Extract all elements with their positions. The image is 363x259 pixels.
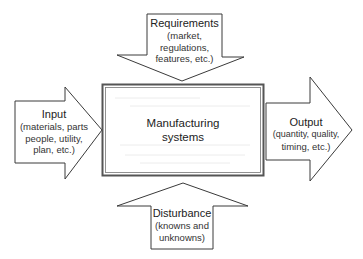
manufacturing-systems-label: Manufacturing systems [104,116,262,144]
output-label: Output (quantity, quality, timing, etc.) [265,116,347,152]
disturbance-title: Disturbance [150,207,214,220]
output-title: Output [265,116,347,129]
output-detail-2: timing, etc.) [265,141,347,153]
requirements-label: Requirements (market, regulations, featu… [147,17,222,65]
disturbance-detail-1: (knowns and [150,220,214,232]
input-label: Input (materials, parts people, utility,… [14,108,94,156]
disturbance-label: Disturbance (knowns and unknowns) [150,207,214,243]
input-detail-1: (materials, parts [14,121,94,133]
center-title-line2: systems [104,130,262,144]
input-detail-3: plan, etc.) [14,144,94,156]
requirements-detail-2: regulations, [147,42,222,54]
input-detail-2: people, utility, [14,133,94,145]
requirements-detail-1: (market, [147,30,222,42]
requirements-detail-3: features, etc.) [147,53,222,65]
requirements-title: Requirements [147,17,222,30]
disturbance-detail-2: unknowns) [150,232,214,244]
center-title-line1: Manufacturing [104,116,262,130]
input-title: Input [14,108,94,121]
output-detail-1: (quantity, quality, [265,129,347,141]
